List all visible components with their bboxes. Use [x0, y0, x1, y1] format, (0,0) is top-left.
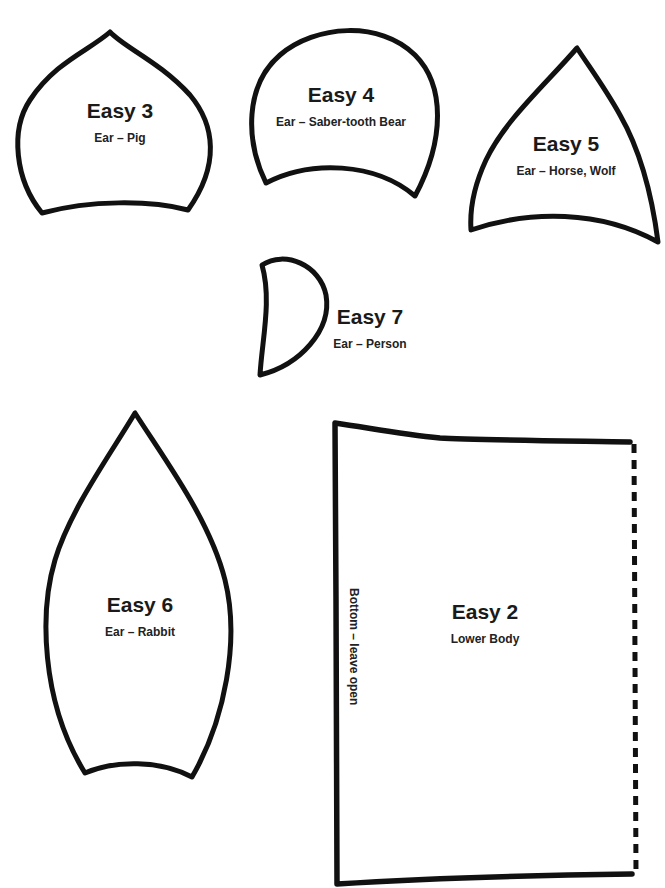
- piece-easy4-label: Easy 4 Ear – Saber-tooth Bear: [276, 83, 406, 129]
- piece-easy6-title: Easy 6: [105, 593, 175, 617]
- piece-easy2-title: Easy 2: [451, 600, 520, 624]
- pattern-piece-easy7-outline: [260, 259, 327, 375]
- piece-easy7-label: Easy 7 Ear – Person: [333, 305, 406, 351]
- piece-easy6-label: Easy 6 Ear – Rabbit: [105, 593, 175, 639]
- piece-easy5-subtitle: Ear – Horse, Wolf: [516, 164, 615, 178]
- pattern-piece-easy2-solid-edge: [335, 423, 632, 884]
- piece-easy5-label: Easy 5 Ear – Horse, Wolf: [516, 132, 615, 178]
- pattern-piece-easy2-fold-line: [634, 444, 636, 874]
- piece-easy2-edge-note: Bottom – leave open: [347, 588, 361, 705]
- piece-easy4-title: Easy 4: [276, 83, 406, 107]
- piece-easy3-title: Easy 3: [87, 99, 154, 123]
- piece-easy3-label: Easy 3 Ear – Pig: [87, 99, 154, 145]
- piece-easy2-subtitle: Lower Body: [451, 632, 520, 646]
- piece-easy6-subtitle: Ear – Rabbit: [105, 625, 175, 639]
- piece-easy5-title: Easy 5: [516, 132, 615, 156]
- piece-easy3-subtitle: Ear – Pig: [87, 131, 154, 145]
- piece-easy4-subtitle: Ear – Saber-tooth Bear: [276, 115, 406, 129]
- piece-easy7-title: Easy 7: [333, 305, 406, 329]
- piece-easy2-label: Easy 2 Lower Body: [451, 600, 520, 646]
- piece-easy7-subtitle: Ear – Person: [333, 337, 406, 351]
